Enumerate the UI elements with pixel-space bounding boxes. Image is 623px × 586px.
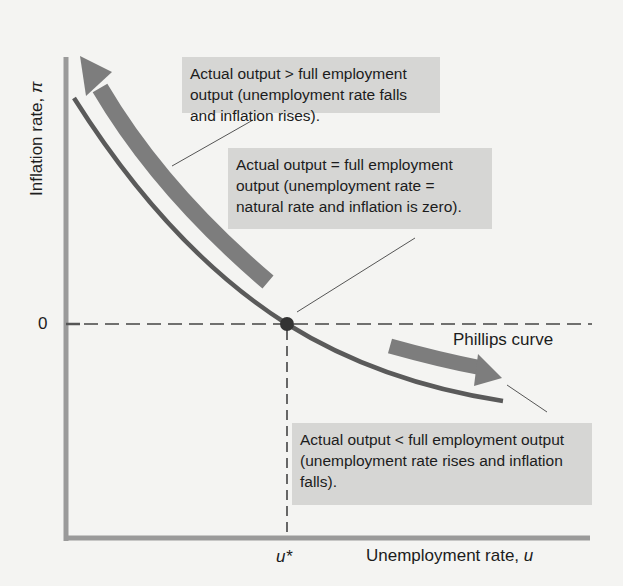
annotation-below-full-employment: Actual output < full employment output (… — [292, 423, 592, 505]
leader-line-at — [297, 238, 415, 312]
zero-tick-label: 0 — [38, 314, 47, 334]
leader-line-below — [507, 385, 547, 412]
natural-rate-tick-label: u* — [276, 547, 292, 567]
x-axis-label: Unemployment rate, u — [366, 546, 533, 566]
annotation-above-full-employment: Actual output > full employment output (… — [182, 57, 440, 113]
annotation-at-full-employment: Actual output = full employment output (… — [228, 148, 492, 229]
natural-rate-point — [280, 317, 294, 331]
phillips-curve-label: Phillips curve — [453, 330, 553, 350]
y-axis-label: Inflation rate, π — [27, 82, 47, 196]
